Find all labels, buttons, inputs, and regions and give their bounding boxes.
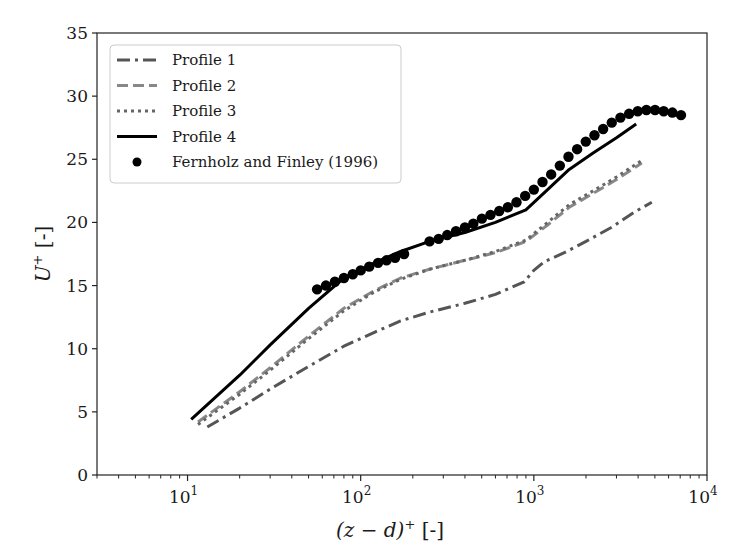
data-point-marker <box>511 197 521 207</box>
data-point-marker <box>364 261 374 271</box>
legend-label: Fernholz and Finley (1996) <box>172 153 378 171</box>
legend: Profile 1Profile 2Profile 3Profile 4Fern… <box>110 45 401 183</box>
y-axis-label: U+ [-] <box>30 226 55 283</box>
y-tick-label: 10 <box>66 339 88 359</box>
legend-label: Profile 1 <box>172 51 236 69</box>
data-point-marker <box>424 236 434 246</box>
y-tick-label: 5 <box>77 402 88 422</box>
data-point-marker <box>520 191 530 201</box>
data-point-marker <box>546 169 556 179</box>
data-point-marker <box>563 152 573 162</box>
data-point-marker <box>399 249 409 259</box>
data-point-marker <box>529 184 539 194</box>
data-point-marker <box>607 117 617 127</box>
data-point-marker <box>572 144 582 154</box>
x-tick-label: 104 <box>688 484 718 507</box>
y-tick-label: 25 <box>66 149 88 169</box>
legend-label: Profile 3 <box>172 102 236 120</box>
x-tick-label: 101 <box>169 484 198 507</box>
data-point-marker <box>581 136 591 146</box>
y-tick-label: 20 <box>66 212 88 232</box>
y-tick-label: 30 <box>66 86 88 106</box>
data-point-marker <box>589 130 599 140</box>
x-tick-label: 103 <box>515 484 544 507</box>
data-point-marker <box>676 110 686 120</box>
x-axis-label: (z − d)+ [-] <box>336 517 444 542</box>
data-point-marker <box>598 124 608 134</box>
legend-marker-icon <box>133 158 142 167</box>
series-line-1 <box>207 202 652 427</box>
data-point-marker <box>312 284 322 294</box>
data-point-marker <box>339 273 349 283</box>
data-point-marker <box>451 226 461 236</box>
data-point-marker <box>390 253 400 263</box>
series-line-3 <box>198 161 642 425</box>
x-tick-label: 102 <box>342 484 371 507</box>
data-point-marker <box>330 277 340 287</box>
data-point-marker <box>321 280 331 290</box>
legend-label: Profile 2 <box>172 77 236 95</box>
chart-canvas: 05101520253035101102103104(z − d)+ [-]U+… <box>0 0 747 560</box>
y-tick-label: 15 <box>66 276 88 296</box>
data-point-marker <box>537 177 547 187</box>
y-tick-label: 0 <box>77 465 88 485</box>
y-tick-label: 35 <box>66 23 88 43</box>
legend-label: Profile 4 <box>172 128 236 146</box>
data-point-marker <box>555 160 565 170</box>
